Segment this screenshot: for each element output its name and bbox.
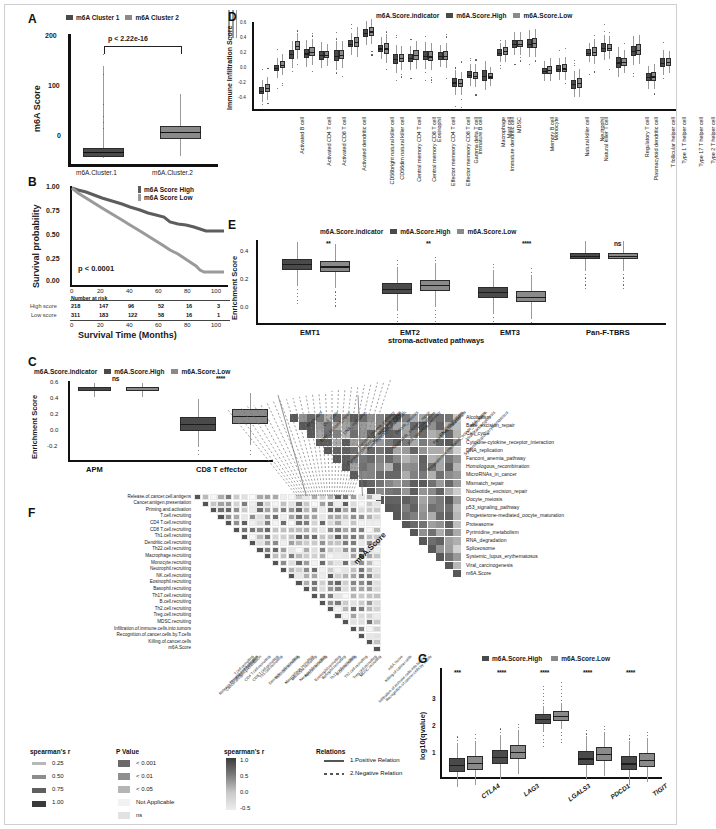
panel-d-median xyxy=(542,71,547,72)
panel-c-box-apm-low xyxy=(126,387,159,391)
panel-d-outlier xyxy=(425,36,426,37)
panel-d-outlier xyxy=(371,54,372,55)
panel-f-cell xyxy=(358,606,365,612)
pathway-row-label: Alcoholism xyxy=(466,414,491,420)
panel-f: F Release.of.cancer.cell.antigensCancer.… xyxy=(28,490,448,740)
heatmap-cell xyxy=(410,463,418,471)
panel-c-ytick: 0.2 xyxy=(50,411,58,417)
panel-g-sig: *** xyxy=(454,669,461,676)
panel-f-cell xyxy=(334,534,341,540)
panel-f-cell xyxy=(319,567,326,573)
panel-e-outlier xyxy=(435,260,436,261)
panel-f-cell xyxy=(327,560,334,566)
panel-f-cell xyxy=(334,580,341,586)
heatmap-cell xyxy=(453,488,461,496)
panel-f-cell xyxy=(327,514,334,520)
panel-f-cell xyxy=(288,494,295,500)
panel-d-median xyxy=(592,52,597,53)
panel-f-cell xyxy=(373,494,380,500)
panel-d-outlier xyxy=(520,57,521,58)
heatmap-cell xyxy=(333,447,341,455)
heatmap-cell xyxy=(453,521,461,529)
panel-d-median xyxy=(423,56,428,57)
panel-c-legend-high: m6A.Score.High xyxy=(114,368,164,375)
panel-f-cell xyxy=(256,534,263,540)
panel-f-cell xyxy=(249,540,256,546)
panel-d-median xyxy=(334,56,339,57)
panel-f-cell xyxy=(249,514,256,520)
panel-g-label: G xyxy=(418,652,427,666)
panel-d-outlier xyxy=(431,77,432,78)
panel-g-outlier xyxy=(500,728,501,729)
panel-d-outlier xyxy=(297,64,298,65)
heatmap-cell xyxy=(445,480,453,488)
panel-g-median xyxy=(535,719,551,720)
heatmap-cell xyxy=(419,447,427,455)
panel-d-outlier xyxy=(312,33,313,34)
panel-f-cell xyxy=(373,580,380,586)
pathway-row-label: Nucleotide_excision_repair xyxy=(466,488,527,494)
panel-f-cell xyxy=(358,593,365,599)
panel-e-outlier xyxy=(335,291,336,292)
heatmap-cell xyxy=(453,496,461,504)
panel-g-outlier xyxy=(561,739,562,740)
heatmap-cell xyxy=(385,463,393,471)
panel-f-cell xyxy=(288,567,295,573)
legend-spearman-label: 1.00 xyxy=(52,799,64,805)
panel-f-cell xyxy=(311,507,318,513)
heatmap-cell xyxy=(376,455,384,463)
panel-f-cell xyxy=(280,540,287,546)
panel-f-row-label: NK.cell.recruiting xyxy=(28,573,191,578)
heatmap-cell xyxy=(385,480,393,488)
heatmap-cell xyxy=(333,430,341,438)
panel-f-cell xyxy=(217,501,224,507)
panel-d-median xyxy=(488,76,493,77)
panel-f-cell xyxy=(366,633,373,639)
panel-e-outlier xyxy=(623,274,624,275)
panel-d-category-label: Eosinophil xyxy=(436,117,442,142)
panel-e-outlier xyxy=(623,281,624,282)
panel-g-legend-low: m6A.Score.Low xyxy=(561,655,610,662)
panel-a-xtick-cluster1: m6A.Cluster.1 xyxy=(76,169,117,176)
panel-f-row-label: Cancer.antigen.presentation xyxy=(28,500,191,505)
legend-pvalue-label: < 0.001 xyxy=(136,760,156,766)
panel-f-cell xyxy=(327,501,334,507)
panel-f-cell xyxy=(366,580,373,586)
panel-f-cell xyxy=(373,501,380,507)
panel-d-outlier xyxy=(410,78,411,79)
panel-b-xtick-0: 0 xyxy=(70,288,73,294)
pathway-row-label: Base_excision_repair xyxy=(466,422,515,428)
panel-f-cell xyxy=(280,527,287,533)
panel-f-cell xyxy=(358,540,365,546)
panel-f-cell xyxy=(280,494,287,500)
panel-d-outlier xyxy=(446,36,447,37)
panel-f-cell xyxy=(358,534,365,540)
panel-f-cell xyxy=(373,560,380,566)
panel-d-outlier xyxy=(292,71,293,72)
panel-d-outlier xyxy=(267,103,268,104)
panel-a-ytick-0: 0 xyxy=(57,132,61,139)
panel-c-sig-cd8: **** xyxy=(216,375,225,382)
panel-b-xtick2-0: 0 xyxy=(70,322,73,328)
heatmap-cell xyxy=(453,504,461,512)
panel-f-row-label: T.cell.recruiting xyxy=(28,513,191,518)
panel-f-cell xyxy=(217,507,224,513)
panel-d-outlier xyxy=(336,38,337,39)
pathway-row-label: Homologous_recombination xyxy=(466,463,529,469)
panel-d-outlier xyxy=(535,60,536,61)
panel-b-xtick2-80: 80 xyxy=(184,322,191,328)
legend-pvalue-label: Not Applicable xyxy=(136,799,174,805)
panel-b-ytick-000: 0.00 xyxy=(46,277,60,284)
heatmap-cell xyxy=(333,439,341,447)
panel-g-outlier xyxy=(629,735,630,736)
panel-f-cell xyxy=(373,613,380,619)
panel-d-outlier xyxy=(396,37,397,38)
panel-f-cell xyxy=(295,580,302,586)
panel-f-cell xyxy=(342,534,349,540)
legend-relations-negative: 2.Negative Relation xyxy=(350,770,402,776)
heatmap-cell xyxy=(436,480,444,488)
legend-swatch-high xyxy=(138,186,141,193)
panel-e-xaxis xyxy=(256,323,666,325)
panel-d-median xyxy=(527,44,532,45)
legend-positive-line xyxy=(324,760,344,762)
